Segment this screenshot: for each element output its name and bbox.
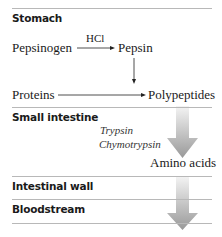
proteins-label: Proteins: [12, 87, 55, 103]
hcl-arrow-icon: [77, 46, 115, 50]
divider-intestinal-wall: [12, 176, 212, 177]
pepsinogen-label: Pepsinogen: [12, 40, 72, 56]
divider-bottom: [12, 223, 212, 224]
polypeptides-label: Polypeptides: [148, 87, 215, 103]
chymotrypsin-label: Chymotrypsin: [99, 138, 161, 150]
amino-acids-label: Amino acids: [150, 155, 216, 171]
divider-small-intestine: [12, 107, 212, 108]
hcl-label: HCl: [86, 32, 104, 44]
divider-top: [12, 8, 212, 9]
section-intestinal-wall-label: Intestinal wall: [12, 180, 93, 192]
pepsin-down-arrow-icon: [132, 58, 136, 84]
pepsin-label: Pepsin: [118, 40, 153, 56]
divider-bloodstream: [12, 199, 212, 200]
section-stomach-label: Stomach: [12, 12, 62, 24]
proteins-arrow-icon: [58, 93, 146, 97]
section-small-intestine-label: Small intestine: [12, 111, 98, 123]
trypsin-label: Trypsin: [100, 124, 133, 136]
section-bloodstream-label: Bloodstream: [12, 203, 85, 215]
protein-digestion-diagram: Stomach Pepsinogen HCl Pepsin Proteins P…: [0, 0, 222, 237]
digestion-flow-arrow-icon: [167, 106, 198, 158]
absorption-flow-arrow-icon: [167, 176, 198, 230]
